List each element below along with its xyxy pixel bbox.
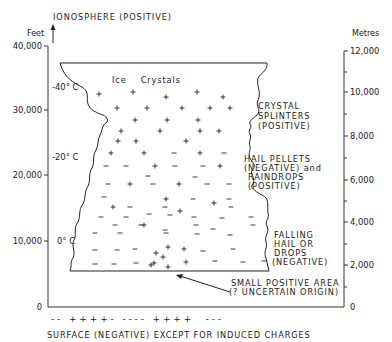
plus-charge-icon [134, 139, 139, 144]
left-axis: 40,000 30,000 20,000 10,000 0 [13, 41, 48, 312]
left-axis-unit: Feet [27, 29, 44, 38]
right-axis-unit: Metres [352, 29, 379, 38]
plus-charge-icon [154, 251, 159, 256]
plus-charge-icon [161, 255, 166, 260]
cloud-outline [60, 63, 269, 271]
svg-text:SPLINTERS: SPLINTERS [258, 111, 310, 121]
left-tick-label: 10,000 [13, 236, 42, 246]
surface-charges: - - + + + + - - - - - + + + + - - - [51, 314, 221, 324]
right-tick-label: 0 [350, 302, 355, 312]
plus-charge-icon [165, 118, 170, 123]
plus-charge-icon [177, 182, 182, 187]
left-tick-label: 0 [37, 302, 42, 312]
right-axis: Metres 12,000 10,000 8,000 6,000 4,000 2… [344, 29, 379, 312]
plus-charge-icon [164, 197, 169, 202]
plus-charge-icon [158, 129, 163, 134]
plus-charge-icon [180, 106, 185, 111]
right-tick-label: 10,000 [350, 87, 379, 97]
plus-charge-icon [221, 95, 226, 100]
plus-charge-icon [166, 245, 171, 250]
plus-charge-icon [116, 139, 121, 144]
temperature-label: -20° C [52, 152, 79, 162]
plus-charge-icon [115, 106, 120, 111]
plus-charge-icon [145, 106, 150, 111]
plus-charge-icon [195, 90, 200, 95]
right-tick-label: 12,000 [350, 46, 379, 56]
svg-text:(NEGATIVE): (NEGATIVE) [272, 257, 328, 267]
svg-text:(? UNCERTAIN ORIGIN): (? UNCERTAIN ORIGIN) [229, 287, 339, 297]
left-tick-label: 40,000 [13, 41, 42, 51]
small-positive-annotation: SMALL POSITIVE AREA (? UNCERTAIN ORIGIN) [229, 278, 340, 297]
plus-charge-icon [119, 129, 124, 134]
right-tick-label: 6,000 [350, 175, 374, 185]
plus-charge-icon [212, 201, 217, 206]
plus-charge-icon [142, 151, 147, 156]
right-tick-label: 8,000 [350, 131, 374, 141]
ionosphere-label: IONOSPHERE (POSITIVE) [53, 12, 172, 22]
plus-charge-icon [228, 106, 233, 111]
plus-charge-icon [182, 247, 187, 252]
hail-pellets-annotation: HAIL PELLETS (NEGATIVE) and RAINDROPS (P… [244, 154, 322, 191]
plus-charge-icon [198, 151, 203, 156]
plus-charge-icon [97, 92, 102, 97]
plus-charge-icon [153, 164, 158, 169]
left-tick-label: 30,000 [13, 105, 42, 115]
plus-charge-icon [184, 260, 189, 265]
plus-charge-icon [166, 265, 171, 270]
right-tick-label: 2,000 [350, 260, 374, 270]
falling-hail-annotation: FALLING HAIL OR DROPS (NEGATIVE) [272, 230, 328, 267]
plus-charge-icon [128, 182, 133, 187]
plus-charge-icon [133, 118, 138, 123]
temperature-label: -40° C [52, 82, 79, 92]
plus-charge-icon [208, 106, 213, 111]
ice-crystals-label: Ice Crystals [112, 75, 181, 85]
crystal-splinters-annotation: CRYSTAL SPLINTERS (POSITIVE) [258, 101, 311, 131]
plus-charge-icon [217, 129, 222, 134]
up-arrow-icon [51, 24, 56, 43]
plus-charge-icon [184, 139, 189, 144]
svg-text:CRYSTAL: CRYSTAL [258, 101, 300, 111]
plus-charge-icon [198, 129, 203, 134]
pointer-arrow-icon [176, 274, 230, 292]
right-tick-label: 4,000 [350, 217, 374, 227]
charge-symbols [93, 90, 267, 270]
plus-charge-icon [109, 151, 114, 156]
plus-charge-icon [111, 205, 116, 210]
plus-charge-icon [131, 90, 136, 95]
temperature-label: 0° C [57, 236, 75, 246]
left-tick-label: 20,000 [13, 170, 42, 180]
surface-label: SURFACE (NEGATIVE) EXCEPT FOR INDUCED CH… [47, 330, 311, 340]
plus-charge-icon [218, 164, 223, 169]
plus-charge-icon [164, 95, 169, 100]
plus-charge-icon [196, 118, 201, 123]
plus-charge-icon [178, 209, 183, 214]
svg-text:(POSITIVE): (POSITIVE) [258, 121, 311, 131]
svg-text:(POSITIVE): (POSITIVE) [248, 181, 301, 191]
thunderstorm-charge-diagram: IONOSPHERE (POSITIVE) Feet 40,000 30,000… [0, 0, 392, 342]
